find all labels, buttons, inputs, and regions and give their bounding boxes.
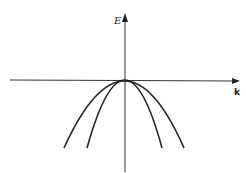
e-axis-label: E xyxy=(113,15,122,26)
k-axis-label: k xyxy=(234,87,241,97)
e-axis-arrow-icon xyxy=(122,13,128,22)
k-axis-arrow-icon xyxy=(232,78,240,84)
outer-parabola-curve xyxy=(64,81,184,148)
band-diagram: E k xyxy=(0,0,246,173)
